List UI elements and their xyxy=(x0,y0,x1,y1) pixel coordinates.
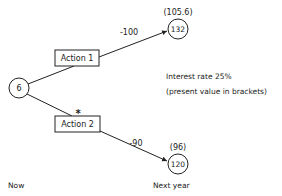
outcome-2-node: 120 xyxy=(168,154,188,174)
decision-tree-diagram: 6 Action 1 -100 * Action 2 -90 (105.6) 1… xyxy=(0,0,282,196)
interest-rate-note: Interest rate 25% xyxy=(166,72,232,81)
edge-root-to-action2 xyxy=(27,94,72,116)
present-value-note: (present value in brackets) xyxy=(166,87,267,96)
outcome-1-node: 132 xyxy=(168,19,188,39)
action-1-cost: -100 xyxy=(120,28,138,37)
action-1-label: Action 1 xyxy=(61,54,94,63)
time-label-next-year: Next year xyxy=(153,181,191,190)
outcome-1-value: 132 xyxy=(171,25,186,34)
action-1-node: Action 1 xyxy=(55,50,99,66)
action-2-node: Action 2 xyxy=(55,116,100,132)
outcome-1-present-value: (105.6) xyxy=(163,8,192,17)
time-label-now: Now xyxy=(8,181,24,190)
root-node: 6 xyxy=(9,78,29,98)
action-2-cost: -90 xyxy=(129,139,142,148)
action-2-label: Action 2 xyxy=(61,120,94,129)
edge-root-to-action1 xyxy=(28,66,74,84)
root-value: 6 xyxy=(16,84,21,93)
outcome-2-present-value: (96) xyxy=(170,143,186,152)
outcome-2-value: 120 xyxy=(171,160,186,169)
